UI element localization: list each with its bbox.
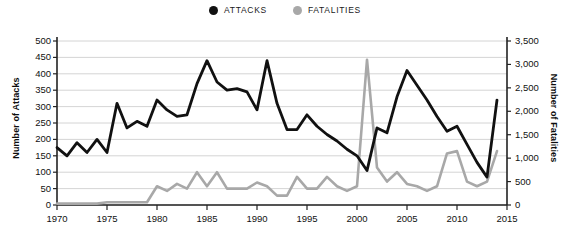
y-axis-left-tick-label: 350 — [5, 85, 51, 95]
y-axis-left-tick-label: 400 — [5, 69, 51, 79]
y-axis-right-tick-label: 2,000 — [515, 106, 555, 116]
x-axis-tick-label: 1995 — [287, 214, 327, 224]
chart-plot-area — [0, 0, 570, 242]
y-axis-left-tick-label: 150 — [5, 151, 51, 161]
y-axis-left-tick-label: 300 — [5, 102, 51, 112]
x-axis-tick-label: 1980 — [137, 214, 177, 224]
y-axis-right-tick-label: 500 — [515, 177, 555, 187]
legend-label-attacks: ATTACKS — [224, 6, 267, 15]
legend-item-fatalities: FATALITIES — [293, 6, 361, 15]
circle-marker-icon — [209, 6, 218, 15]
chart-legend: ATTACKS FATALITIES — [0, 6, 570, 15]
x-axis-tick-label: 2000 — [337, 214, 377, 224]
y-axis-right-tick-label: 3,000 — [515, 59, 555, 69]
x-axis-tick-label: 1985 — [187, 214, 227, 224]
y-axis-right-tick-label: 1,000 — [515, 153, 555, 163]
x-axis-tick-label: 1990 — [237, 214, 277, 224]
y-axis-right-tick-label: 3,500 — [515, 36, 555, 46]
y-axis-left-tick-label: 200 — [5, 134, 51, 144]
x-axis-tick-label: 1975 — [87, 214, 127, 224]
y-axis-right-title: Number of Fatalities — [549, 53, 559, 183]
y-axis-right-tick-label: 0 — [515, 200, 555, 210]
y-axis-left-tick-label: 250 — [5, 118, 51, 128]
y-axis-left-tick-label: 450 — [5, 52, 51, 62]
x-axis-tick-label: 2010 — [437, 214, 477, 224]
y-axis-right-tick-label: 1,500 — [515, 130, 555, 140]
x-axis-tick-label: 2015 — [487, 214, 527, 224]
y-axis-right-tick-label: 2,500 — [515, 83, 555, 93]
legend-label-fatalities: FATALITIES — [308, 6, 361, 15]
series-line-fatalities — [57, 60, 497, 204]
legend-item-attacks: ATTACKS — [209, 6, 267, 15]
y-axis-left-tick-label: 50 — [5, 184, 51, 194]
y-axis-left-tick-label: 500 — [5, 36, 51, 46]
circle-marker-icon — [293, 6, 302, 15]
y-axis-left-tick-label: 0 — [5, 200, 51, 210]
y-axis-left-tick-label: 100 — [5, 167, 51, 177]
x-axis-tick-label: 1970 — [37, 214, 77, 224]
x-axis-tick-label: 2005 — [387, 214, 427, 224]
series-line-attacks — [57, 61, 497, 177]
chart-container: ATTACKS FATALITIES Number of Attacks Num… — [0, 0, 570, 242]
